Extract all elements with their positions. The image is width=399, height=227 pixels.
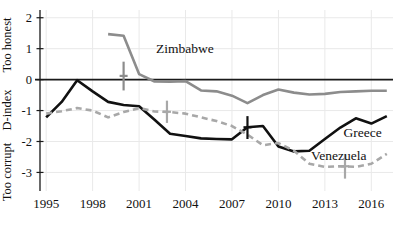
x-tick-label: 1995 <box>33 196 59 211</box>
y-axis-tick-labels: 210-1-2-3 <box>22 11 32 180</box>
d-index-line-chart: 210-1-2-3 199519982001200420072010201320… <box>0 0 399 227</box>
y-tick-label: -1 <box>22 104 32 118</box>
x-tick-label: 1998 <box>80 196 106 211</box>
y-tick-label: 2 <box>26 11 32 25</box>
y-tick-label: -3 <box>22 166 32 180</box>
y-tick-label: 0 <box>26 73 32 87</box>
x-tick-label: 2016 <box>358 196 385 211</box>
x-axis-tick-labels: 19951998200120042007201020132016 <box>33 196 385 211</box>
data-series <box>46 34 387 167</box>
x-tick-label: 2001 <box>126 196 152 211</box>
chart-container: 210-1-2-3 199519982001200420072010201320… <box>0 0 399 227</box>
y-tick-label: -2 <box>22 135 32 149</box>
y-axis-label-too-corrupt: Too corrupt <box>0 142 14 201</box>
axes <box>35 10 393 191</box>
series-line-zimbabwe <box>108 34 387 103</box>
y-tick-label: 1 <box>26 42 32 56</box>
y-axis-rotated-labels: Too honestD-indexToo corrupt <box>0 17 14 201</box>
x-tick-label: 2004 <box>173 196 200 211</box>
x-tick-label: 2013 <box>312 196 338 211</box>
annotation-greece: Greece <box>343 125 381 140</box>
x-tick-label: 2010 <box>265 196 291 211</box>
x-tick-label: 2007 <box>219 196 246 211</box>
annotation-zimbabwe: Zimbabwe <box>156 41 214 56</box>
y-axis-label-d-index: D-index <box>0 89 14 131</box>
grid-lines <box>40 10 393 191</box>
y-axis-label-too-honest: Too honest <box>0 17 14 73</box>
annotation-venezuela: Venezuela <box>311 148 366 163</box>
